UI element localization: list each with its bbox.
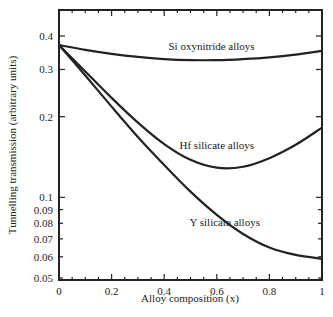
x-axis-ticks: 00.20.40.60.81 [56,10,325,297]
x-tick-label: 0.2 [105,285,119,297]
y-tick-label: 0.06 [34,251,54,263]
y-tick-label: 0.3 [39,63,53,75]
x-axis-label: Alloy composition (x) [141,292,239,305]
y-tick-label: 0.2 [39,111,53,123]
x-tick-label: 0 [56,285,62,297]
y-axis-label: Tunnelling transmission (arbitrary units… [6,56,19,235]
y-tick-label: 0.07 [34,233,54,245]
chart: 00.20.40.60.81 0.050.060.070.080.090.10.… [0,0,333,317]
y-tick-label: 0.08 [34,217,54,229]
y-tick-label: 0.05 [34,272,54,284]
y-axis-ticks: 0.050.060.070.080.090.10.20.30.4 [34,30,322,284]
x-tick-label: 1 [319,285,325,297]
x-tick-label: 0.8 [263,285,277,297]
y-tick-label: 0.09 [34,204,54,216]
series-label: Y silicate alloys [189,216,259,228]
series-label: Si oxynitride alloys [168,40,254,52]
y-tick-label: 0.1 [39,191,53,203]
y-tick-label: 0.4 [39,30,53,42]
series-label: Hf silicate alloys [180,139,255,151]
series-labels: Si oxynitride alloysHf silicate alloysY … [168,40,259,228]
